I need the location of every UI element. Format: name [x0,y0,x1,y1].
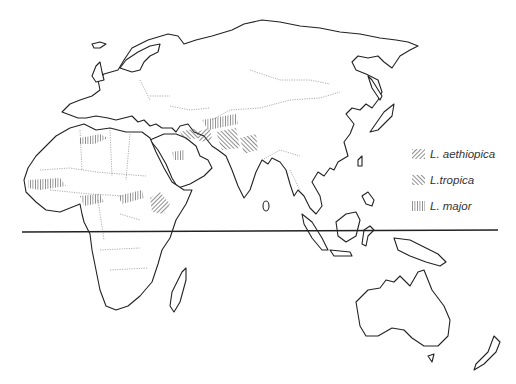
iceland [92,42,106,48]
new-zealand [474,336,500,370]
legend-item-tropica: L.tropica [412,168,495,192]
legend: L. aethiopica L.tropica L. major [412,142,495,220]
legend-item-major: L. major [412,194,495,218]
java [330,250,352,256]
japan [370,104,394,132]
legend-label: L.tropica [430,174,474,186]
borneo [336,212,360,242]
legend-label: L. major [430,200,472,212]
sumatra [302,214,328,250]
legend-label: L. aethiopica [430,148,495,160]
diagonal-hatch-ne-icon [412,149,425,159]
tasmania [428,354,434,362]
sri-lanka [263,201,269,211]
australia [356,270,450,346]
philippines [362,192,374,206]
new-guinea [394,238,446,266]
diagonal-hatch-nw-icon [412,175,425,185]
madagascar [170,268,186,312]
britain [92,62,104,82]
legend-item-aethiopica: L. aethiopica [412,142,495,166]
sulawesi [362,226,374,246]
taiwan [358,156,362,166]
vertical-hatch-icon [412,201,425,211]
